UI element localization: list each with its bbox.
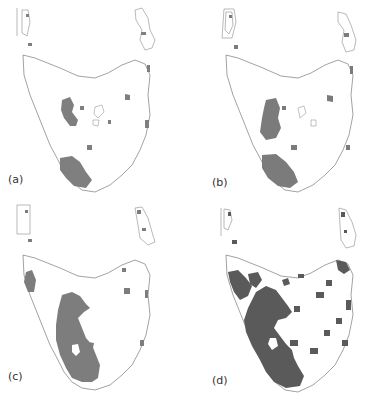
tasmania-map-a	[0, 0, 186, 199]
panel-label-c: (c)	[8, 370, 23, 383]
tasmania-map-d	[186, 200, 372, 399]
panel-label-d: (d)	[212, 374, 228, 387]
map-panel-d: (d)	[186, 200, 372, 399]
map-panel-b: (b)	[186, 0, 372, 199]
map-panel-a: (a)	[0, 0, 186, 199]
tasmania-map-b	[186, 0, 372, 199]
panel-label-b: (b)	[212, 176, 228, 189]
tasmania-map-c	[0, 200, 186, 399]
map-panel-c: (c)	[0, 200, 186, 399]
panel-label-a: (a)	[8, 173, 23, 186]
